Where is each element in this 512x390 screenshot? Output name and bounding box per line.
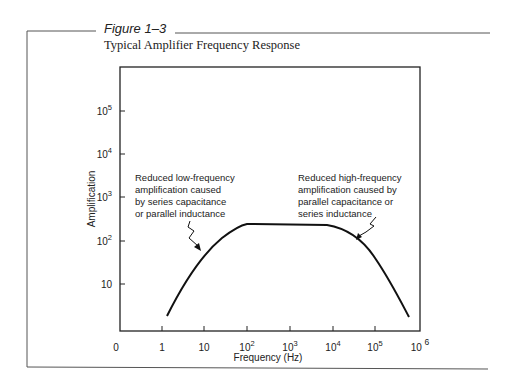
y-axis-label: Amplification [86,171,97,228]
low-annotation-arrow [188,221,198,246]
svg-text:amplification caused: amplification caused [135,184,221,195]
svg-text:102: 102 [239,339,254,353]
svg-text:10: 10 [101,279,113,290]
svg-text:102: 102 [97,233,112,247]
low-frequency-annotation: Reduced low-frequency amplification caus… [135,172,235,219]
svg-text:Reduced low-frequency: Reduced low-frequency [135,172,235,183]
svg-text:103: 103 [282,339,297,353]
svg-text:105: 105 [367,339,382,353]
svg-text:104: 104 [97,146,112,160]
svg-text:or parallel inductance: or parallel inductance [135,208,225,219]
y-ticks [120,111,125,284]
svg-text:10: 10 [198,342,210,353]
response-curve [167,224,409,317]
x-ticks [162,326,375,331]
svg-text:1: 1 [159,342,165,353]
svg-text:103: 103 [97,189,112,203]
svg-text:Reduced high-frequency: Reduced high-frequency [298,172,402,183]
y-tick-labels: 105 104 103 102 10 [97,103,113,290]
svg-text:series inductance: series inductance [298,208,372,219]
svg-text:by series capacitance: by series capacitance [135,196,226,207]
svg-text:amplification caused by: amplification caused by [298,184,397,195]
chart: 105 104 103 102 10 0 1 10 102 103 104 10… [0,0,512,390]
high-frequency-annotation: Reduced high-frequency amplification cau… [298,172,402,219]
arrowhead-icon [194,243,201,251]
svg-text:0: 0 [113,342,119,353]
svg-text:parallel capacitance or: parallel capacitance or [298,196,393,207]
high-annotation-arrow [359,217,376,236]
x-tick-labels: 0 1 10 102 103 104 105 10 6 [113,337,429,353]
x-axis-label: Frequency (Hz) [234,352,303,363]
svg-text:104: 104 [325,339,340,353]
svg-text:10 6: 10 6 [411,337,430,353]
svg-text:105: 105 [97,103,112,117]
